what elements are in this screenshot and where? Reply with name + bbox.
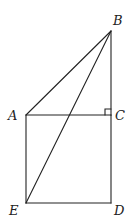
label-e: E [8,203,19,218]
label-b: B [112,13,123,28]
segment-be [26,31,111,203]
label-a: A [7,108,17,123]
right-angle-marker [105,109,111,115]
label-d: D [113,203,125,218]
segment-ab [26,31,111,115]
label-c: C [115,108,125,123]
geometry-diagram: B A C E D [0,0,132,224]
